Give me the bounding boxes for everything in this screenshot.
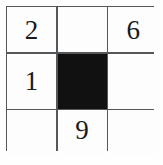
cell-value-r3c2: 9 — [75, 117, 89, 144]
cell-value-r1c3: 6 — [126, 17, 140, 44]
number-grid-figure: 2 6 1 9 — [0, 0, 163, 165]
number-grid: 2 6 1 9 — [6, 6, 154, 151]
grid-cell-r1c2[interactable] — [58, 7, 107, 52]
grid-cell-r2c3[interactable] — [108, 54, 158, 109]
grid-cell-r2c1[interactable]: 1 — [7, 54, 56, 109]
cell-value-r1c1: 2 — [25, 17, 39, 44]
grid-cell-r3c1[interactable] — [7, 110, 56, 155]
grid-cell-r2c2-blocked[interactable] — [58, 54, 107, 109]
grid-cell-r1c3[interactable]: 6 — [108, 7, 158, 52]
grid-cell-r1c1[interactable]: 2 — [7, 7, 56, 52]
cell-value-r2c1: 1 — [25, 68, 39, 95]
grid-cell-r3c2[interactable]: 9 — [58, 110, 107, 155]
grid-cell-r3c3[interactable] — [108, 110, 158, 155]
